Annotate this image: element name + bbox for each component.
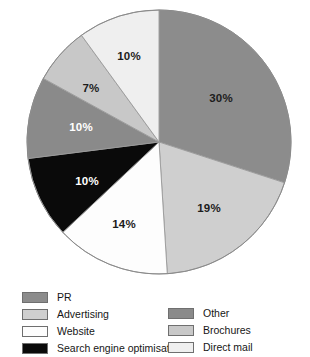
pie-chart-figure: 30%19%14%10%10%7%10% PRAdvertisingWebsit… xyxy=(0,0,310,357)
legend-item-label: PR xyxy=(57,292,72,303)
legend-item[interactable]: Search engine optimisation xyxy=(22,340,184,357)
legend-color-swatch xyxy=(22,326,48,337)
legend-color-swatch xyxy=(22,309,48,320)
legend-item[interactable]: Website xyxy=(22,323,184,340)
pie-slice-value-label: 14% xyxy=(112,218,136,230)
pie-slice-value-label: 10% xyxy=(69,121,93,133)
pie-svg: 30%19%14%10%10%7%10% xyxy=(0,0,310,288)
legend-column-left: PRAdvertisingWebsiteSearch engine optimi… xyxy=(22,289,184,357)
legend-item-label: Brochures xyxy=(203,325,251,336)
pie-slice-value-label: 7% xyxy=(82,82,99,94)
legend-column-right: OtherBrochuresDirect mail xyxy=(168,306,253,357)
legend-item[interactable]: PR xyxy=(22,289,184,306)
pie-slice-value-label: 10% xyxy=(75,175,99,187)
legend-item-label: Direct mail xyxy=(203,342,253,353)
chart-legend: PRAdvertisingWebsiteSearch engine optimi… xyxy=(0,289,310,357)
pie-slice-value-label: 19% xyxy=(197,202,221,214)
legend-item[interactable]: Brochures xyxy=(168,323,253,340)
legend-item-label: Search engine optimisation xyxy=(57,343,184,354)
legend-item-label: Other xyxy=(203,308,229,319)
legend-color-swatch xyxy=(22,292,48,303)
legend-color-swatch xyxy=(168,308,194,319)
legend-color-swatch xyxy=(22,343,48,354)
legend-color-swatch xyxy=(168,325,194,336)
legend-item-label: Advertising xyxy=(57,309,109,320)
pie-plot-area: 30%19%14%10%10%7%10% xyxy=(0,0,310,288)
legend-item[interactable]: Advertising xyxy=(22,306,184,323)
legend-color-swatch xyxy=(168,342,194,353)
pie-slice-value-label: 10% xyxy=(117,50,141,62)
legend-item-label: Website xyxy=(57,326,95,337)
legend-item[interactable]: Other xyxy=(168,306,253,323)
pie-slice-value-label: 30% xyxy=(209,92,233,104)
legend-item[interactable]: Direct mail xyxy=(168,340,253,357)
pie-slice-group xyxy=(27,10,291,274)
